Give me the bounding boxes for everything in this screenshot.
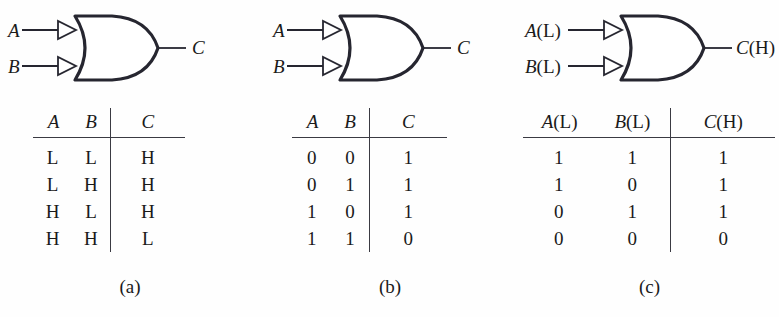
panel-caption-c: (c) (520, 277, 779, 296)
truth-table-header-row-b: A B C (292, 108, 447, 138)
or-gate-symbol-b (260, 0, 520, 100)
cell-in2: L (72, 198, 110, 225)
or-gate-body-a (75, 16, 158, 80)
table-row: H L H (33, 198, 185, 225)
panel-caption-b: (b) (260, 277, 520, 296)
cell-in2: 0 (594, 225, 671, 252)
truth-table-body-c: 1 1 1 1 0 1 0 1 1 0 0 0 (523, 138, 775, 253)
truth-table-c: A(L) B(L) C(H) 1 1 1 1 0 1 0 1 (523, 108, 775, 252)
truth-table-a: A B C L L H L H H H L (33, 108, 185, 252)
cell-out: 0 (369, 225, 447, 252)
cell-in2: 1 (331, 171, 369, 198)
cell-in1: 1 (292, 198, 331, 225)
table-row: L L H (33, 138, 185, 172)
cell-in2: H (72, 225, 110, 252)
cell-in2: H (72, 171, 110, 198)
cell-in1: 1 (523, 171, 594, 198)
table-row: 0 1 1 (292, 171, 447, 198)
cell-in1: 0 (523, 225, 594, 252)
column-header-b-out: C (369, 108, 447, 138)
polarity-triangle-c-2 (604, 57, 622, 75)
panel-caption-a: (a) (0, 277, 260, 296)
column-header-c-in1: A(L) (523, 108, 594, 138)
column-header-a-in1: A (33, 108, 72, 138)
cell-in2: 0 (331, 198, 369, 225)
schematic-a (0, 0, 260, 100)
cell-out: 1 (671, 171, 775, 198)
cell-out: 1 (369, 138, 447, 172)
panel-a: A B C A B C L L H L H H (0, 0, 260, 317)
cell-in1: H (33, 225, 72, 252)
cell-out: 0 (671, 225, 775, 252)
cell-out: 1 (369, 198, 447, 225)
table-row: H H L (33, 225, 185, 252)
cell-in2: 1 (331, 225, 369, 252)
cell-out: H (110, 171, 185, 198)
truth-table-body-b: 0 0 1 0 1 1 1 0 1 1 1 0 (292, 138, 447, 253)
column-header-b-in2: B (331, 108, 369, 138)
input-label-c-2: B(L) (525, 57, 561, 76)
cell-out: 1 (671, 138, 775, 172)
table-row: 1 1 0 (292, 225, 447, 252)
cell-in2: 1 (594, 198, 671, 225)
cell-in1: 1 (523, 138, 594, 172)
cell-in1: 0 (292, 171, 331, 198)
output-label-b: C (457, 38, 470, 57)
input-label-a-2: B (8, 57, 20, 76)
polarity-triangle-a-2 (58, 57, 76, 75)
or-gate-body-c (621, 16, 704, 80)
column-header-c-in2: B(L) (594, 108, 671, 138)
cell-in1: L (33, 138, 72, 172)
or-gate-body-b (340, 16, 423, 80)
input-label-c-1: A(L) (525, 21, 561, 40)
column-header-a-out: C (110, 108, 185, 138)
cell-in2: 0 (594, 171, 671, 198)
cell-in2: 0 (331, 138, 369, 172)
cell-in1: H (33, 198, 72, 225)
cell-in1: L (33, 171, 72, 198)
column-header-c-out: C(H) (671, 108, 775, 138)
output-label-a: C (192, 38, 205, 57)
truth-table-b: A B C 0 0 1 0 1 1 1 0 (292, 108, 447, 252)
truth-table-header-row-a: A B C (33, 108, 185, 138)
column-header-a-in2: B (72, 108, 110, 138)
polarity-triangle-b-2 (323, 57, 341, 75)
truth-table-header-row-c: A(L) B(L) C(H) (523, 108, 775, 138)
or-gate-symbol-a (0, 0, 260, 100)
input-label-b-1: A (273, 21, 285, 40)
input-label-b-2: B (273, 57, 285, 76)
truth-table-body-a: L L H L H H H L H H H L (33, 138, 185, 253)
cell-out: H (110, 138, 185, 172)
input-label-a-1: A (8, 21, 20, 40)
cell-out: 1 (671, 198, 775, 225)
polarity-triangle-c-1 (604, 21, 622, 39)
output-label-c: C(H) (736, 38, 775, 57)
table-row: 0 1 1 (523, 198, 775, 225)
column-header-b-in1: A (292, 108, 331, 138)
table-row: 1 0 1 (292, 198, 447, 225)
cell-out: 1 (369, 171, 447, 198)
table-row: 0 0 1 (292, 138, 447, 172)
logic-gate-figure: A B C A B C L L H L H H (0, 0, 779, 317)
cell-in2: 1 (594, 138, 671, 172)
panel-b: A B C A B C 0 0 1 0 1 1 (260, 0, 520, 317)
table-row: L H H (33, 171, 185, 198)
cell-in1: 0 (292, 138, 331, 172)
table-row: 1 1 1 (523, 138, 775, 172)
cell-out: H (110, 198, 185, 225)
polarity-triangle-b-1 (323, 21, 341, 39)
schematic-b (260, 0, 520, 100)
table-row: 1 0 1 (523, 171, 775, 198)
cell-in2: L (72, 138, 110, 172)
polarity-triangle-a-1 (58, 21, 76, 39)
table-row: 0 0 0 (523, 225, 775, 252)
cell-in1: 1 (292, 225, 331, 252)
cell-in1: 0 (523, 198, 594, 225)
cell-out: L (110, 225, 185, 252)
panel-c: A(L) B(L) C(H) A(L) B(L) C(H) 1 1 1 1 0 (520, 0, 779, 317)
